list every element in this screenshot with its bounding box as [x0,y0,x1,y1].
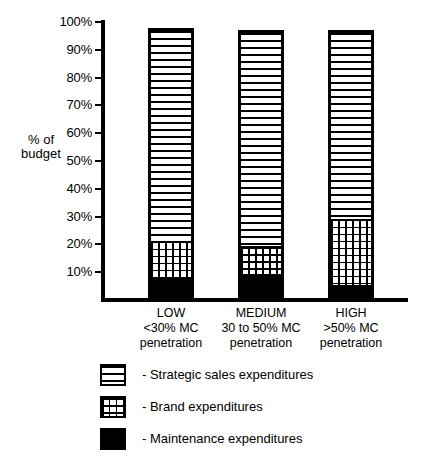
stacked-bar-high [328,30,374,300]
y-axis-tick [95,104,102,106]
legend-swatch-horizontal-lines [100,364,126,386]
stacked-bar-medium [238,30,284,300]
y-axis-tick-label-text: 80% [30,71,92,84]
segment-strategic-sales-expenditures [331,33,371,219]
segment-brand-expenditures [151,242,191,278]
segment-brand-expenditures [241,247,281,275]
x-axis-label-high: HIGH>50% MCpenetration [291,306,411,351]
segment-divider [241,274,281,276]
y-axis-tick-label-text: 40% [30,182,92,195]
y-axis-tick-label-text: 70% [30,98,92,111]
segment-maintenance-expenditures [151,278,191,297]
y-axis-tick [95,188,102,190]
y-axis-tick-label: 40% [30,182,92,195]
stacked-bar-chart: % of budget 100%90%80%70%60%50%40%30%20%… [0,0,423,457]
segment-divider [151,241,191,243]
segment-divider [331,285,371,287]
legend-swatch-dotted [100,396,126,418]
segment-maintenance-expenditures [331,286,371,297]
x-axis-label-main: HIGH [291,306,411,321]
y-axis-tick-label: 20% [30,237,92,250]
y-axis-tick-label: 30% [30,210,92,223]
x-axis-label-sub: penetration [291,336,411,351]
y-axis-tick-label-text: 100% [30,15,92,28]
legend-item: - Brand expenditures [100,394,380,422]
y-axis-tick [95,77,102,79]
legend-label: - Strategic sales expenditures [142,367,313,383]
y-axis-tick [95,49,102,51]
segment-divider [241,246,281,248]
y-axis-tick-label: 50% [30,154,92,167]
y-axis-tick [95,243,102,245]
y-axis-tick-label-text: 60% [30,126,92,139]
segment-maintenance-expenditures [241,275,281,297]
segment-divider [151,277,191,279]
legend-item: - Strategic sales expenditures [100,362,380,390]
legend-item: - Maintenance expenditures [100,426,380,454]
y-axis-tick-label: 60% [30,126,92,139]
y-axis-tick [95,216,102,218]
stacked-bar-low [148,28,194,300]
y-axis-tick-label-text: 90% [30,43,92,56]
y-axis-tick [95,271,102,273]
y-axis-tick [95,132,102,134]
segment-divider [331,219,371,221]
y-axis-tick-label: 70% [30,98,92,111]
y-axis-tick-label: 90% [30,43,92,56]
segment-strategic-sales-expenditures [151,31,191,242]
y-axis-tick-label: 80% [30,71,92,84]
y-axis-tick-label: 100% [30,15,92,28]
segment-brand-expenditures [331,220,371,287]
y-axis-tick-label-text: 30% [30,210,92,223]
segment-strategic-sales-expenditures [241,33,281,247]
x-axis-label-sub: >50% MC [291,321,411,336]
legend-swatch-solid-black [100,428,126,450]
legend-label: - Maintenance expenditures [142,431,302,447]
legend-label: - Brand expenditures [142,399,263,415]
y-axis-tick-label-text: 10% [30,265,92,278]
y-axis-tick [95,160,102,162]
y-axis-tick [95,21,102,23]
chart-legend: - Strategic sales expenditures- Brand ex… [100,362,380,457]
y-axis-tick-label-text: 20% [30,237,92,250]
y-axis-tick-label: 10% [30,265,92,278]
y-axis-tick-label-text: 50% [30,154,92,167]
